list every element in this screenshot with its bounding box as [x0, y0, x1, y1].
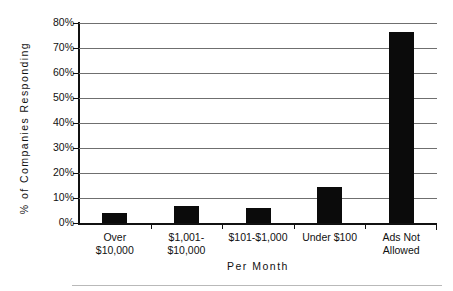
gridline-70	[79, 48, 437, 49]
y-tick-mark-80	[73, 23, 79, 24]
y-tick-label-20: 20%	[0, 167, 74, 177]
y-tick-label-30: 30%	[0, 142, 74, 152]
bar-3	[317, 187, 342, 223]
gridline-40	[79, 123, 437, 124]
x-tick-mark-1	[151, 224, 152, 229]
y-tick-label-70: 70%	[0, 42, 74, 52]
plot-area	[79, 23, 437, 223]
x-tick-mark-4	[365, 224, 366, 229]
x-axis-line	[78, 223, 437, 225]
x-tick-label-line: Ads Not	[356, 231, 446, 244]
y-tick-mark-70	[73, 48, 79, 49]
y-tick-mark-0	[73, 223, 79, 224]
y-tick-label-60: 60%	[0, 67, 74, 77]
gridline-20	[79, 173, 437, 174]
x-tick-label-4: Ads NotAllowed	[356, 231, 446, 256]
page-separator-rule	[72, 285, 442, 286]
y-tick-label-50: 50%	[0, 92, 74, 102]
gridline-60	[79, 73, 437, 74]
x-tick-label-line: Allowed	[356, 244, 446, 257]
y-tick-label-10: 10%	[0, 192, 74, 202]
y-axis-tick-labels: 0%10%20%30%40%50%60%70%80%	[0, 23, 74, 223]
gridline-50	[79, 98, 437, 99]
bar-1	[174, 206, 199, 224]
x-tick-mark-2	[222, 224, 223, 229]
bar-4	[389, 32, 414, 223]
y-tick-mark-30	[73, 148, 79, 149]
y-tick-mark-20	[73, 173, 79, 174]
gridline-80	[79, 23, 437, 24]
y-tick-mark-50	[73, 98, 79, 99]
y-tick-label-0: 0%	[0, 217, 74, 227]
x-axis-end-cap	[436, 224, 437, 230]
bar-2	[246, 208, 271, 223]
y-tick-label-40: 40%	[0, 117, 74, 127]
x-tick-label-line: $10,000	[141, 244, 231, 257]
x-tick-mark-3	[294, 224, 295, 229]
y-tick-mark-60	[73, 73, 79, 74]
x-axis-title: Per Month	[79, 260, 437, 272]
gridline-30	[79, 148, 437, 149]
gridline-10	[79, 198, 437, 199]
bar-chart-figure: % of Companies Responding 0%10%20%30%40%…	[0, 0, 453, 291]
y-tick-mark-10	[73, 198, 79, 199]
bar-0	[102, 213, 127, 223]
y-tick-mark-40	[73, 123, 79, 124]
y-tick-label-80: 80%	[0, 17, 74, 27]
